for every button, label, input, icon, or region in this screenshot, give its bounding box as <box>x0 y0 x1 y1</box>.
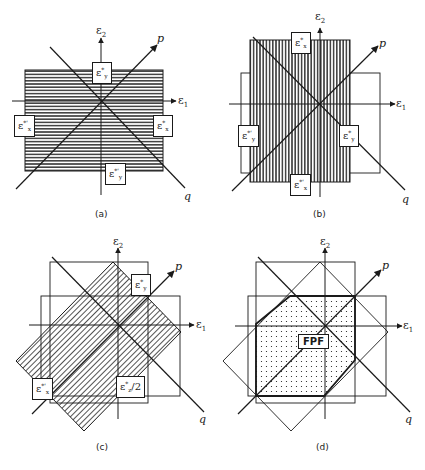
panel-c-e2-label: ε2 <box>113 235 123 250</box>
panel-d-p-label: p <box>382 259 389 272</box>
panel-b-label-ey-star: ε*y <box>339 125 359 147</box>
panel-b-caption: (b) <box>313 209 326 219</box>
panel-d-e2-label: ε2 <box>320 235 330 250</box>
panel-c-label-ez-star-half: ε*z/2 <box>116 376 145 398</box>
panel-a-caption: (a) <box>95 209 108 219</box>
e2-subscript: 2 <box>102 31 106 39</box>
panel-c-label-ex-star-prime: ε*'x <box>32 378 53 400</box>
panel-c-caption: (c) <box>96 442 108 452</box>
fpf-label: FPF <box>298 334 329 349</box>
panel-d-q-label: q <box>405 413 412 426</box>
panel-a-label-ex-star: ε*x <box>153 115 173 137</box>
panel-b-q-label: q <box>402 193 409 206</box>
panel-b-label-ex-star: ε*x <box>291 32 311 54</box>
panel-b-e1-label: ε1 <box>396 97 406 112</box>
panel-b-e2-label: ε2 <box>315 10 325 25</box>
panel-b-label-ey-star-prime: ε*'y <box>238 125 259 147</box>
panel-d-e1-label: ε1 <box>403 319 413 334</box>
panel-c <box>16 248 204 431</box>
panel-a-label-ey-star: ε*y <box>92 62 112 84</box>
e1-subscript: 1 <box>184 101 188 109</box>
panel-a-p-label: p <box>157 32 164 45</box>
strain-space-figure <box>0 0 425 470</box>
panel-c-q-label: q <box>199 413 206 426</box>
panel-a-label-ey-star-prime: ε*'y <box>105 163 126 185</box>
panel-b-label-ex-star-prime: ε*'x <box>290 174 311 196</box>
failure-envelope-horizontal-hatch <box>25 70 163 171</box>
panel-b <box>229 28 405 197</box>
panel-c-label-ey-star: ε*y <box>131 274 151 296</box>
panel-c-e1-label: ε1 <box>196 318 206 333</box>
panel-a-e2-label: ε2 <box>96 24 106 39</box>
panel-a-e1-label: ε1 <box>178 94 188 109</box>
panel-c-p-label: p <box>175 260 182 273</box>
failure-envelope-vertical-hatch <box>250 40 350 182</box>
panel-b-p-label: p <box>379 37 386 50</box>
panel-d-caption: (d) <box>316 442 329 452</box>
panel-a-label-ex-star-prime: ε*'x <box>14 115 35 137</box>
panel-a-q-label: q <box>184 190 191 203</box>
